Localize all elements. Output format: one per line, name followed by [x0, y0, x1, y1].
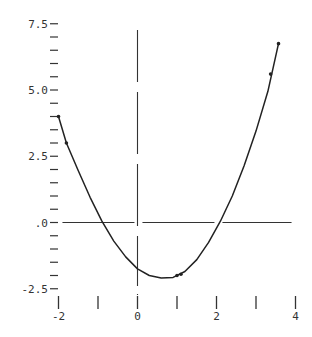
data-point-marker	[65, 141, 69, 145]
data-point-marker	[175, 274, 179, 278]
y-tick-label: 2.5	[28, 150, 48, 163]
data-point-marker	[277, 42, 281, 46]
chart-plot: 7.55.02.5.0-2.5 -2024	[0, 0, 312, 337]
x-tick-label: 4	[292, 310, 299, 323]
y-axis: 7.55.02.5.0-2.5	[22, 18, 59, 296]
data-point-marker	[179, 272, 183, 276]
curve-line	[59, 44, 279, 279]
y-tick-label: .0	[35, 217, 48, 230]
y-tick-label: -2.5	[22, 283, 49, 296]
data-point-marker	[57, 115, 61, 119]
x-tick-label: 2	[213, 310, 220, 323]
x-tick-label: -2	[52, 310, 65, 323]
y-tick-label: 7.5	[28, 18, 48, 31]
x-tick-label: 0	[134, 310, 141, 323]
data-point-marker	[269, 72, 273, 76]
x-axis: -2024	[52, 296, 299, 323]
series-group	[57, 42, 281, 278]
y-tick-label: 5.0	[28, 84, 48, 97]
zero-axis-lines	[62, 30, 291, 295]
